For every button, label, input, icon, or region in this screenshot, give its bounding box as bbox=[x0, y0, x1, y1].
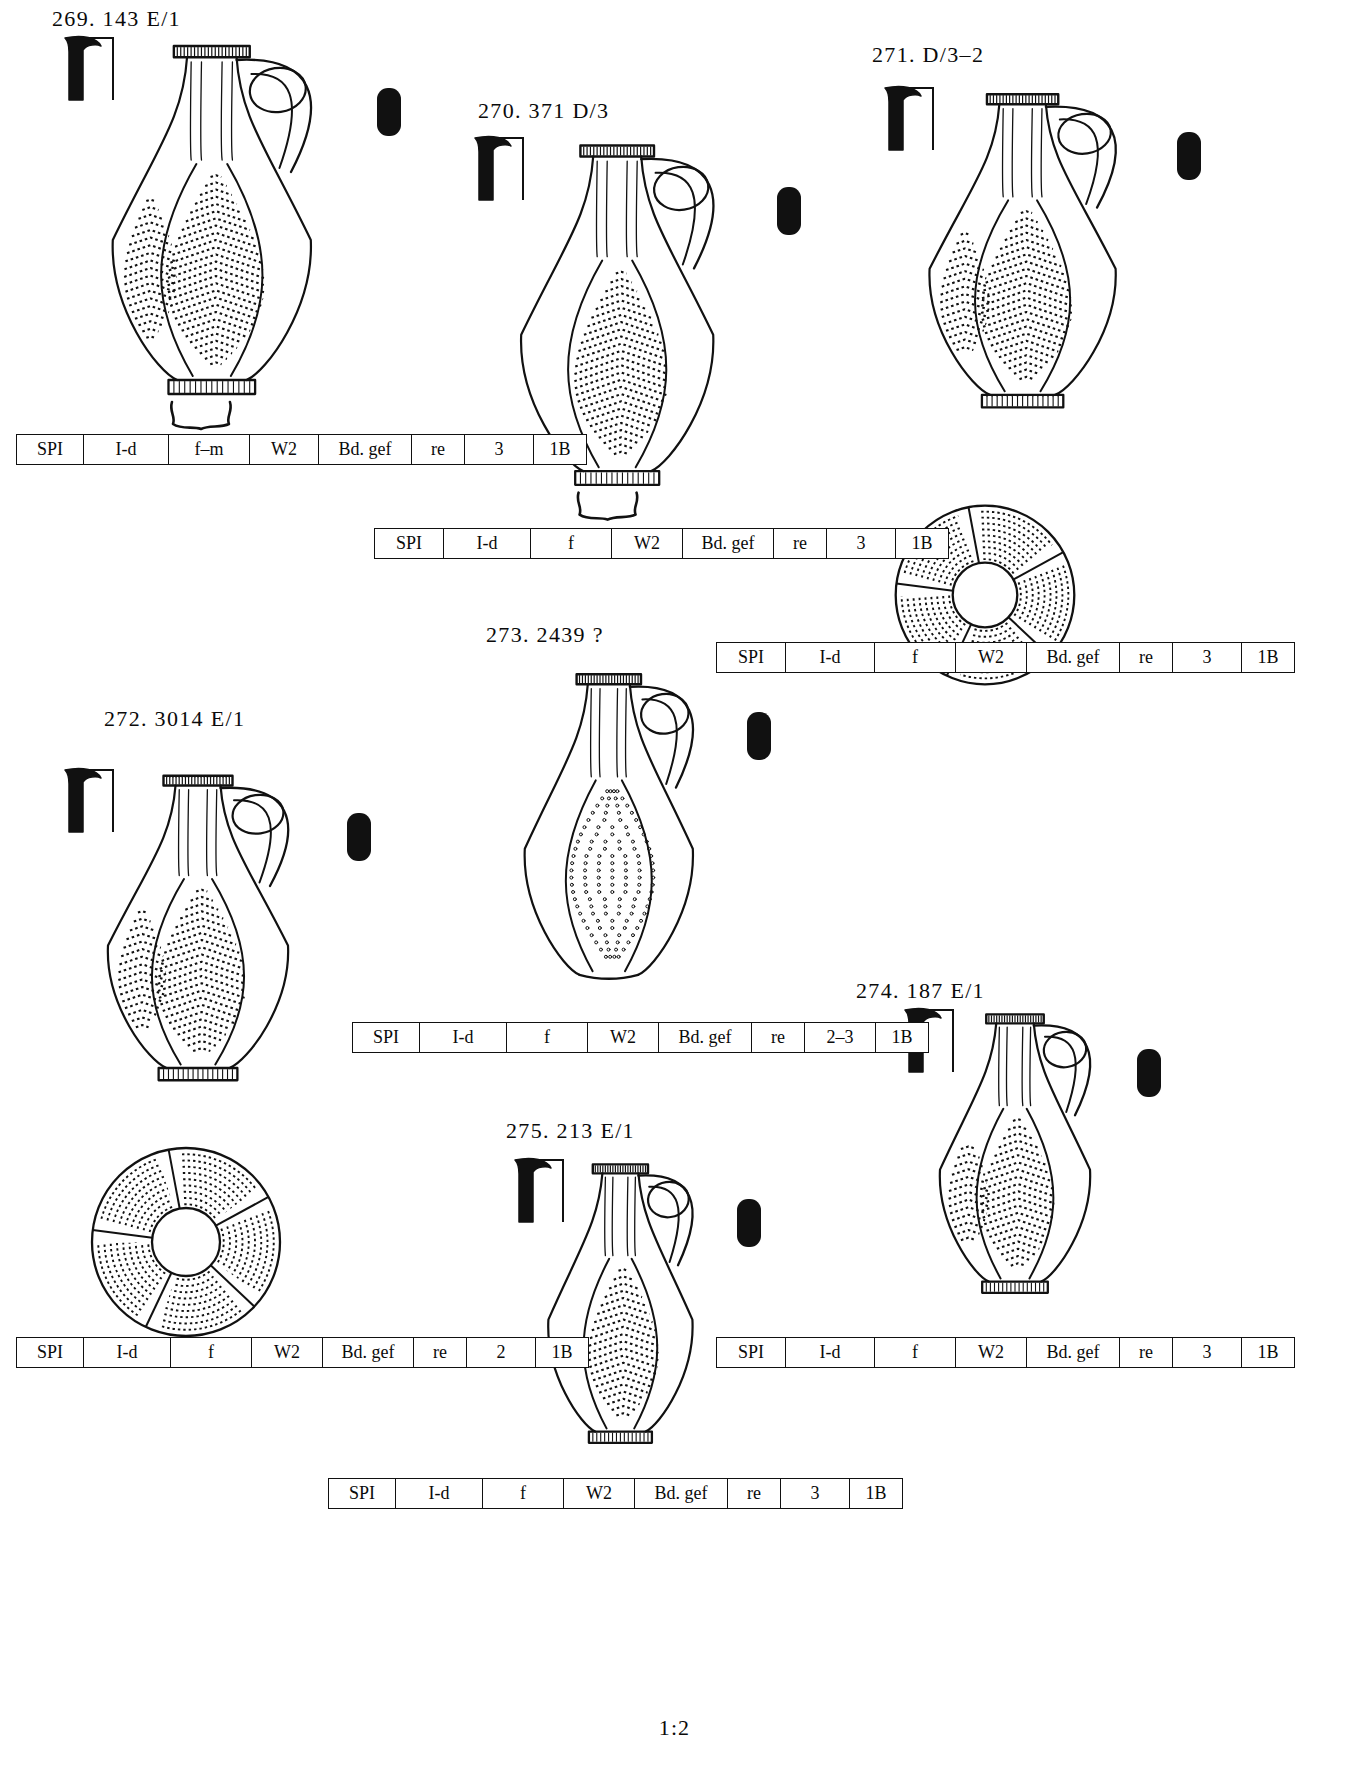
attribute-cell-form: I-d bbox=[84, 1338, 171, 1368]
attribute-cell-firing: re bbox=[774, 529, 827, 559]
attribute-cell-firing: re bbox=[1120, 1338, 1173, 1368]
rim-profile-mark-270 bbox=[467, 132, 527, 214]
attribute-cell-surface: W2 bbox=[956, 643, 1027, 673]
attribute-cell-base: Bd. gef bbox=[323, 1338, 414, 1368]
attribute-cell-ware: SPI bbox=[717, 643, 786, 673]
attribute-cell-fabric: f–m bbox=[169, 435, 250, 465]
attribute-cell-base: Bd. gef bbox=[1027, 643, 1120, 673]
rim-profile-mark-275 bbox=[507, 1154, 567, 1236]
attribute-cell-ware: SPI bbox=[17, 435, 84, 465]
attribute-cell-form: I-d bbox=[420, 1023, 507, 1053]
attribute-cell-surface: W2 bbox=[588, 1023, 659, 1053]
rim-profile-mark-272 bbox=[57, 764, 117, 846]
attribute-cell-surface: W2 bbox=[564, 1479, 635, 1509]
handle-section-mark-273 bbox=[742, 708, 776, 768]
catalogue-label-269: 269. 143 E/1 bbox=[52, 6, 181, 32]
attribute-cell-group: 1B bbox=[536, 1338, 589, 1368]
top-view-drawing-272 bbox=[86, 1142, 286, 1342]
attribute-cell-phase: 3 bbox=[1173, 643, 1242, 673]
attribute-cell-group: 1B bbox=[534, 435, 587, 465]
table-row: SPII-dfW2Bd. gefre31B bbox=[375, 529, 949, 559]
attribute-cell-form: I-d bbox=[84, 435, 169, 465]
handle-section-mark-271 bbox=[1172, 128, 1206, 188]
attribute-cell-surface: W2 bbox=[250, 435, 319, 465]
handle-section-mark-270 bbox=[772, 183, 806, 243]
handle-section-mark-275 bbox=[732, 1195, 766, 1255]
table-row: SPII-dfW2Bd. gefre31B bbox=[717, 643, 1295, 673]
attribute-table-275: SPII-dfW2Bd. gefre31B bbox=[328, 1478, 903, 1509]
attribute-cell-phase: 2–3 bbox=[805, 1023, 876, 1053]
attribute-cell-base: Bd. gef bbox=[683, 529, 774, 559]
attribute-cell-base: Bd. gef bbox=[659, 1023, 752, 1053]
attribute-cell-form: I-d bbox=[786, 643, 875, 673]
attribute-cell-surface: W2 bbox=[252, 1338, 323, 1368]
attribute-cell-base: Bd. gef bbox=[319, 435, 412, 465]
handle-section-mark-269 bbox=[372, 84, 406, 144]
catalogue-label-273: 273. 2439 ? bbox=[486, 622, 604, 648]
attribute-cell-fabric: f bbox=[875, 1338, 956, 1368]
catalogue-label-274: 274. 187 E/1 bbox=[856, 978, 985, 1004]
attribute-cell-firing: re bbox=[412, 435, 465, 465]
attribute-cell-form: I-d bbox=[444, 529, 531, 559]
catalogue-label-271: 271. D/3–2 bbox=[872, 42, 984, 68]
attribute-cell-phase: 3 bbox=[1173, 1338, 1242, 1368]
attribute-cell-fabric: f bbox=[507, 1023, 588, 1053]
rim-profile-mark-269 bbox=[57, 32, 117, 114]
attribute-cell-fabric: f bbox=[483, 1479, 564, 1509]
attribute-table-271: SPII-dfW2Bd. gefre31B bbox=[716, 642, 1295, 673]
table-row: SPII-dfW2Bd. gefre31B bbox=[329, 1479, 903, 1509]
attribute-cell-phase: 3 bbox=[781, 1479, 850, 1509]
attribute-cell-form: I-d bbox=[786, 1338, 875, 1368]
attribute-cell-ware: SPI bbox=[375, 529, 444, 559]
scale-note: 1:2 bbox=[659, 1715, 690, 1741]
attribute-cell-group: 1B bbox=[1242, 1338, 1295, 1368]
vessel-drawing-273 bbox=[480, 658, 760, 1018]
attribute-cell-ware: SPI bbox=[717, 1338, 786, 1368]
attribute-cell-phase: 3 bbox=[465, 435, 534, 465]
handle-section-mark-272 bbox=[342, 809, 376, 869]
table-row: SPII-dfW2Bd. gefre2–31B bbox=[353, 1023, 929, 1053]
attribute-cell-group: 1B bbox=[896, 529, 949, 559]
rim-profile-mark-271 bbox=[877, 82, 937, 164]
attribute-cell-fabric: f bbox=[875, 643, 956, 673]
attribute-table-269: SPII-df–mW2Bd. gefre31B bbox=[16, 434, 587, 465]
attribute-cell-surface: W2 bbox=[956, 1338, 1027, 1368]
attribute-table-270: SPII-dfW2Bd. gefre31B bbox=[374, 528, 949, 559]
catalogue-label-270: 270. 371 D/3 bbox=[478, 98, 609, 124]
catalogue-label-275: 275. 213 E/1 bbox=[506, 1118, 635, 1144]
attribute-cell-fabric: f bbox=[171, 1338, 252, 1368]
attribute-table-272: SPII-dfW2Bd. gefre21B bbox=[16, 1337, 589, 1368]
attribute-table-273: SPII-dfW2Bd. gefre2–31B bbox=[352, 1022, 929, 1053]
attribute-cell-firing: re bbox=[752, 1023, 805, 1053]
attribute-cell-phase: 3 bbox=[827, 529, 896, 559]
attribute-cell-firing: re bbox=[414, 1338, 467, 1368]
attribute-cell-base: Bd. gef bbox=[635, 1479, 728, 1509]
attribute-cell-form: I-d bbox=[396, 1479, 483, 1509]
handle-section-mark-274 bbox=[1132, 1045, 1166, 1105]
attribute-cell-phase: 2 bbox=[467, 1338, 536, 1368]
attribute-cell-ware: SPI bbox=[17, 1338, 84, 1368]
attribute-cell-surface: W2 bbox=[612, 529, 683, 559]
attribute-table-274: SPII-dfW2Bd. gefre31B bbox=[716, 1337, 1295, 1368]
table-row: SPII-df–mW2Bd. gefre31B bbox=[17, 435, 587, 465]
catalogue-label-272: 272. 3014 E/1 bbox=[104, 706, 245, 732]
table-row: SPII-dfW2Bd. gefre21B bbox=[17, 1338, 589, 1368]
catalogue-plate: 269. 143 E/1270. 371 D/3271. D/3–2272. 3… bbox=[0, 0, 1349, 1772]
attribute-cell-fabric: f bbox=[531, 529, 612, 559]
attribute-cell-group: 1B bbox=[1242, 643, 1295, 673]
attribute-cell-group: 1B bbox=[876, 1023, 929, 1053]
attribute-cell-base: Bd. gef bbox=[1027, 1338, 1120, 1368]
attribute-cell-firing: re bbox=[1120, 643, 1173, 673]
attribute-cell-ware: SPI bbox=[353, 1023, 420, 1053]
attribute-cell-group: 1B bbox=[850, 1479, 903, 1509]
attribute-cell-firing: re bbox=[728, 1479, 781, 1509]
attribute-cell-ware: SPI bbox=[329, 1479, 396, 1509]
table-row: SPII-dfW2Bd. gefre31B bbox=[717, 1338, 1295, 1368]
